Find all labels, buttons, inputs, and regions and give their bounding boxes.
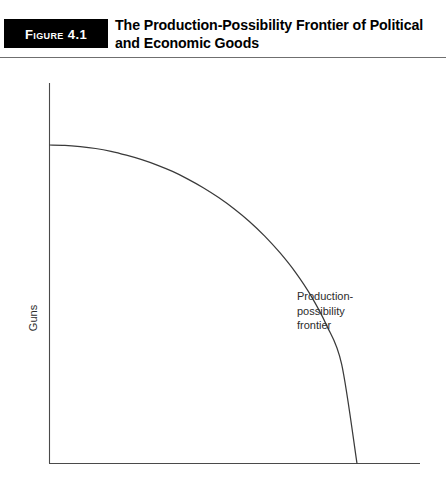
curve-annotation-line-2: possibility: [297, 304, 353, 319]
figure-header: Figure 4.1 The Production-Possibility Fr…: [0, 0, 446, 58]
figure-title: The Production-Possibility Frontier of P…: [115, 16, 441, 52]
y-axis-label: Guns: [27, 305, 39, 331]
curve-annotation-line-1: Production-: [297, 289, 353, 304]
ppf-chart-svg: [0, 58, 446, 503]
figure-number-badge: Figure 4.1: [4, 19, 108, 48]
curve-annotation-line-3: frontier: [297, 318, 353, 333]
chart-plot-area: Guns Butter Production- possibility fron…: [0, 58, 446, 503]
curve-annotation: Production- possibility frontier: [297, 289, 353, 333]
figure-number-label: Figure 4.1: [4, 27, 108, 40]
